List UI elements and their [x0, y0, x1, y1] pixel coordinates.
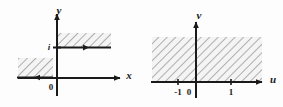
left-y-axis-label: y — [55, 4, 62, 16]
right-plot-group: v u -1 0 1 — [151, 9, 276, 98]
left-lower-hatched-region — [18, 58, 53, 77]
right-v-axis-label: v — [197, 9, 202, 21]
right-u-axis-label: u — [270, 73, 276, 85]
left-origin-label: 0 — [49, 82, 54, 92]
figure-container: y x i 0 v u -1 0 1 — [0, 0, 283, 107]
right-tick-label-zero: 0 — [187, 87, 192, 97]
math-diagram-svg: y x i 0 v u -1 0 1 — [0, 0, 283, 107]
left-imaginary-unit-label: i — [48, 42, 51, 52]
left-upper-hatched-region — [58, 33, 111, 47]
left-plot-group: y x i 0 — [17, 4, 132, 96]
right-tick-label-one: 1 — [229, 87, 234, 97]
right-hatched-region — [152, 37, 262, 82]
left-x-axis-label: x — [125, 69, 132, 81]
right-tick-label-minus1: -1 — [174, 87, 182, 97]
